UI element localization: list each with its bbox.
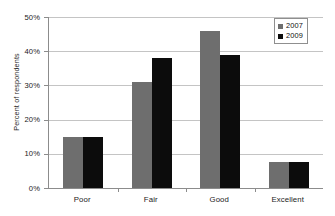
bar-excellent-2009 — [289, 162, 309, 188]
bar-excellent-2007 — [269, 162, 289, 188]
y-axis-tick-label: 10% — [0, 149, 44, 158]
x-axis-tick-mark — [118, 188, 119, 192]
y-axis-labels: 0%10%20%30%40%50% — [0, 0, 44, 216]
y-axis-tick-label: 20% — [0, 115, 44, 124]
y-axis-tick-label: 50% — [0, 13, 44, 22]
y-axis-tick-label: 30% — [0, 81, 44, 90]
bar-poor-2007 — [63, 137, 83, 188]
legend-item-2009: 2009 — [278, 31, 303, 41]
x-axis-tick-mark — [255, 188, 256, 192]
x-axis-labels: PoorFairGoodExcellent — [48, 194, 322, 208]
bar-good-2007 — [200, 31, 220, 188]
x-axis-tick-mark — [186, 188, 187, 192]
x-axis-label-poor: Poor — [48, 194, 117, 205]
x-axis-label-good: Good — [185, 194, 254, 205]
legend-label: 2009 — [286, 31, 303, 41]
bar-chart: Percent of respondents 0%10%20%30%40%50%… — [0, 0, 335, 216]
gridline — [49, 120, 323, 121]
x-axis-label-excellent: Excellent — [254, 194, 323, 205]
gridline — [49, 51, 323, 52]
chart-legend: 20072009 — [274, 18, 308, 44]
gridline — [49, 85, 323, 86]
x-axis-label-fair: Fair — [117, 194, 186, 205]
legend-label: 2007 — [286, 21, 303, 31]
bar-fair-2007 — [132, 82, 152, 188]
y-axis-tick-label: 0% — [0, 184, 44, 193]
legend-item-2007: 2007 — [278, 21, 303, 31]
bar-poor-2009 — [83, 137, 103, 188]
bar-good-2009 — [220, 55, 240, 188]
bar-fair-2009 — [152, 58, 172, 188]
y-axis-tick-label: 40% — [0, 47, 44, 56]
legend-swatch-icon — [278, 34, 283, 39]
legend-swatch-icon — [278, 24, 283, 29]
